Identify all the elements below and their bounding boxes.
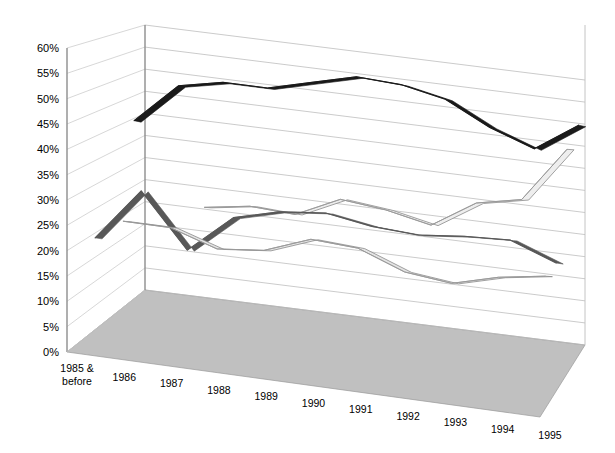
y-axis-labels: 0%5%10%15%20%25%30%35%40%45%50%55%60% xyxy=(37,42,59,358)
x-axis-tick-label: 1992 xyxy=(396,410,420,422)
y-axis-tick-label: 55% xyxy=(37,67,59,79)
y-axis-tick-label: 10% xyxy=(37,295,59,307)
y-axis-tick-label: 20% xyxy=(37,245,59,257)
x-axis-tick-text: 1989 xyxy=(255,390,279,402)
x-axis-tick-label: 1989 xyxy=(255,390,279,402)
x-axis-tick-text: 1987 xyxy=(160,377,184,389)
x-axis-tick-text: 1994 xyxy=(491,423,515,435)
x-axis-tick-text: 1995 xyxy=(538,429,562,441)
x-axis-tick-text: 1988 xyxy=(207,384,231,396)
line-chart-3d: 0%5%10%15%20%25%30%35%40%45%50%55%60% 19… xyxy=(0,0,615,453)
x-axis-tick-label: 1986 xyxy=(113,371,137,383)
y-axis-tick-label: 50% xyxy=(37,93,59,105)
x-axis-tick-label: 1985 &before xyxy=(60,362,93,387)
x-axis-tick-label: 1987 xyxy=(160,377,184,389)
x-axis-tick-label: 1988 xyxy=(207,384,231,396)
x-axis-tick-text: 1992 xyxy=(396,410,420,422)
x-axis-tick-text: 1993 xyxy=(444,416,468,428)
x-axis-tick-label: 1993 xyxy=(444,416,468,428)
y-axis-tick-label: 30% xyxy=(37,194,59,206)
y-axis-tick-label: 60% xyxy=(37,42,59,54)
y-axis-tick-label: 0% xyxy=(43,346,59,358)
y-axis-tick-label: 5% xyxy=(43,321,59,333)
x-axis-tick-text: 1991 xyxy=(349,403,373,415)
y-axis-tick-label: 25% xyxy=(37,219,59,231)
y-axis-tick-label: 15% xyxy=(37,270,59,282)
x-axis-tick-text: 1986 xyxy=(113,371,137,383)
y-axis-tick-label: 40% xyxy=(37,143,59,155)
x-axis-tick-line2: before xyxy=(62,375,92,387)
chart-container: 0%5%10%15%20%25%30%35%40%45%50%55%60% 19… xyxy=(0,0,615,453)
x-axis-tick-label: 1994 xyxy=(491,423,515,435)
x-axis-tick-text: 1990 xyxy=(302,397,326,409)
y-axis-tick-label: 35% xyxy=(37,169,59,181)
x-axis-tick-label: 1995 xyxy=(538,429,562,441)
x-axis-tick-label: 1990 xyxy=(302,397,326,409)
x-axis-tick-label: 1991 xyxy=(349,403,373,415)
x-axis-tick-line1: 1985 & xyxy=(60,362,93,374)
y-axis-tick-label: 45% xyxy=(37,118,59,130)
